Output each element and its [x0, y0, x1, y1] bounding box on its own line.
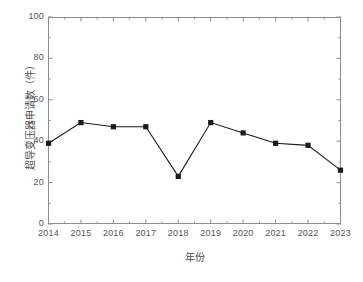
data-point-marker [305, 143, 310, 148]
x-axis-tick-label: 2014 [31, 228, 67, 238]
x-axis-tick-label: 2021 [258, 228, 294, 238]
x-axis-tick-label: 2022 [290, 228, 326, 238]
data-point-marker [338, 168, 343, 173]
data-point-marker [208, 120, 213, 125]
x-axis-tick-label: 2019 [193, 228, 229, 238]
data-point-marker [78, 120, 83, 125]
plot-area [48, 17, 341, 224]
x-axis-tick-label: 2017 [128, 228, 164, 238]
page-edge-artifact [0, 276, 363, 280]
x-axis-tick-label: 2016 [95, 228, 131, 238]
y-axis-title: 超导变压器申请数（件） [25, 30, 36, 200]
x-axis-title: 年份 [48, 252, 341, 263]
data-point-marker [111, 124, 116, 129]
data-point-marker [273, 141, 278, 146]
data-series-line [49, 123, 341, 177]
axis-ticks [48, 17, 341, 224]
data-point-marker [143, 124, 148, 129]
data-point-marker [241, 130, 246, 135]
data-point-marker [176, 174, 181, 179]
x-axis-tick-label: 2023 [323, 228, 359, 238]
y-axis-tick-label: 0 [18, 219, 44, 228]
x-axis-tick-label: 2015 [63, 228, 99, 238]
x-axis-tick-label: 2018 [160, 228, 196, 238]
chart-figure: 020406080100 超导变压器申请数（件） 201420152016201… [0, 0, 363, 282]
y-axis-tick-label: 100 [18, 12, 44, 21]
x-axis-tick-label: 2020 [225, 228, 261, 238]
data-point-marker [46, 141, 51, 146]
